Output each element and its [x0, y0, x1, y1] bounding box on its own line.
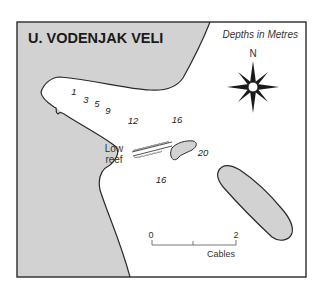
depth-value: 3: [83, 94, 89, 105]
reef-label-line1: Low: [105, 143, 124, 154]
scale-start-label: 0: [148, 230, 153, 240]
reef-label-line2: reef: [105, 154, 122, 165]
depth-value: 5: [94, 98, 100, 109]
depth-legend: Depths in Metres: [222, 29, 298, 40]
depth-value: 20: [197, 147, 209, 158]
depth-value: 16: [172, 114, 183, 125]
depth-value: 16: [156, 174, 167, 185]
scale-end-label: 2: [233, 230, 238, 240]
depth-value: 1: [71, 86, 76, 97]
chart-map: U. VODENJAK VELI Depths in Metres N 1 3 …: [0, 0, 321, 293]
depth-value: 9: [105, 105, 111, 116]
map-title: U. VODENJAK VELI: [28, 30, 163, 46]
depth-value: 12: [128, 115, 139, 126]
scale-unit-label: Cables: [207, 249, 236, 259]
north-label: N: [249, 48, 256, 59]
